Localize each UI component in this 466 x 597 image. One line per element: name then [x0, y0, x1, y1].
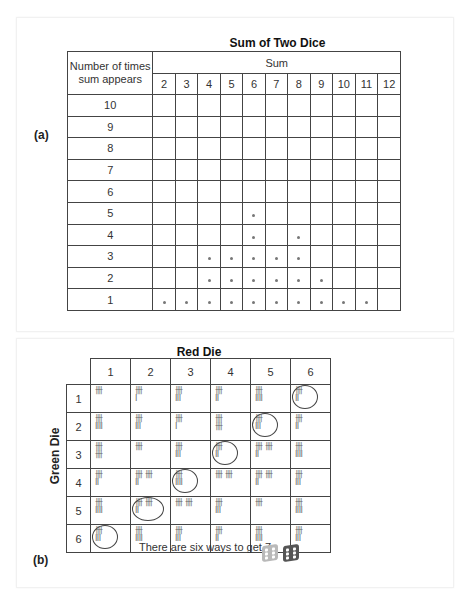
tally-cell-sum-7-count-3	[265, 246, 287, 268]
sum-header-2: 2	[153, 74, 175, 95]
tally-cell-sum-10-count-10	[333, 95, 356, 117]
red-die-icon	[283, 544, 299, 562]
tally-marks: 卌 卌 II	[255, 443, 290, 459]
tally-dot	[297, 279, 300, 282]
tally-marks: 卌 IIII	[295, 443, 330, 459]
tally-marks: 卌 卌	[175, 499, 210, 507]
tally-cell-sum-6-count-4	[243, 224, 265, 246]
tally-cell-sum-6-count-8	[243, 138, 265, 160]
tally-cell-sum-7-count-10	[265, 95, 287, 117]
tally-cell-sum-10-count-5	[333, 202, 356, 224]
tally-cell-sum-9-count-4	[310, 224, 332, 246]
sum-header-10: 10	[333, 74, 356, 95]
tally-dot	[230, 257, 233, 260]
table-row: 10	[68, 95, 401, 117]
tally-cell: 卌 III	[131, 413, 171, 441]
tally-cell-sum-10-count-2	[333, 267, 356, 289]
tally-cell-sum-2-count-10	[153, 95, 175, 117]
tally-cell-sum-8-count-10	[288, 95, 310, 117]
tally-marks: 卌 IIII	[95, 499, 130, 515]
tally-marks: 卌	[135, 443, 170, 451]
green-die-row-1: 1	[67, 385, 91, 413]
tally-cell-sum-2-count-5	[153, 202, 175, 224]
tally-cell-sum-12-count-6	[378, 181, 401, 203]
circled-tally-cell: 卌 III	[251, 413, 291, 441]
tally-cell-sum-3-count-3	[175, 246, 197, 268]
tally-marks: 卌 II	[95, 471, 130, 487]
tally-dot	[252, 214, 255, 217]
tally-cell-sum-12-count-5	[378, 202, 401, 224]
tally-cell: 卌 II	[291, 413, 331, 441]
tally-cell: 卌	[251, 497, 291, 525]
tally-cell-sum-10-count-6	[333, 181, 356, 203]
red-die-column-2: 2	[131, 359, 171, 385]
table-row: 7	[68, 159, 401, 181]
tally-marks: 卌 II	[215, 387, 250, 403]
tally-cell: 卌 IIII	[291, 497, 331, 525]
die-pip	[286, 552, 289, 555]
tally-cell-sum-6-count-3	[243, 246, 265, 268]
tally-cell-sum-7-count-9	[265, 116, 287, 138]
tally-cell-sum-11-count-5	[355, 202, 378, 224]
die-pip	[272, 555, 275, 558]
tally-cell: 卌 卌	[171, 497, 211, 525]
sum-header-7: 7	[265, 74, 287, 95]
tally-cell-sum-4-count-2	[198, 267, 220, 289]
tally-marks: 卌 卌	[215, 471, 250, 479]
tally-cell-sum-5-count-10	[220, 95, 242, 117]
tally-cell-sum-6-count-6	[243, 181, 265, 203]
tally-dot	[163, 301, 166, 304]
die-pip	[272, 547, 275, 550]
count-label: 1	[68, 289, 153, 311]
tally-dot	[208, 279, 211, 282]
tally-dot	[365, 301, 368, 304]
tally-marks: 卌 I	[135, 387, 170, 403]
tally-cell-sum-11-count-6	[355, 181, 378, 203]
table-row: 1卌卌 I卌 III卌 II卌 IIII卌 II	[67, 385, 331, 413]
tally-cell-sum-4-count-5	[198, 202, 220, 224]
tally-dot	[208, 257, 211, 260]
tally-marks: 卌 IIII	[295, 499, 330, 515]
tally-cell: 卌 II	[91, 469, 131, 497]
tally-cell-sum-9-count-1	[310, 289, 332, 311]
panel-label-b: (b)	[33, 553, 48, 567]
tally-cell-sum-5-count-6	[220, 181, 242, 203]
tally-cell-sum-5-count-3	[220, 246, 242, 268]
count-label: 5	[68, 202, 153, 224]
sum-table-title: Sum of Two Dice	[154, 36, 401, 50]
tally-cell-sum-6-count-1	[243, 289, 265, 311]
tally-marks: 卌 卌 II	[255, 471, 290, 487]
tally-cell-sum-4-count-1	[198, 289, 220, 311]
tally-cell-sum-12-count-4	[378, 224, 401, 246]
table-row: 5卌 IIII卌 卌 II卌 卌卌 III卌卌 IIII	[67, 497, 331, 525]
tally-cell-sum-9-count-9	[310, 116, 332, 138]
tally-cell-sum-8-count-7	[288, 159, 310, 181]
tally-cell-sum-7-count-5	[265, 202, 287, 224]
die-pip	[286, 548, 289, 551]
tally-cell-sum-4-count-6	[198, 181, 220, 203]
tally-marks: 卌 IIII	[255, 387, 290, 403]
tally-marks: 卌 卌 II	[135, 499, 170, 515]
tally-dot	[252, 279, 255, 282]
tally-cell-sum-4-count-4	[198, 224, 220, 246]
tally-cell-sum-9-count-7	[310, 159, 332, 181]
table-row: 8	[68, 138, 401, 160]
tally-marks: 卌 III	[215, 499, 250, 515]
tally-marks: 卌 III	[255, 415, 290, 431]
circled-tally-cell: 卌 卌 II	[131, 497, 171, 525]
table-row: 5	[68, 202, 401, 224]
tally-cell-sum-2-count-7	[153, 159, 175, 181]
tally-cell-sum-9-count-10	[310, 95, 332, 117]
tally-cell-sum-10-count-9	[333, 116, 356, 138]
tally-cell-sum-2-count-4	[153, 224, 175, 246]
tally-cell-sum-8-count-1	[288, 289, 310, 311]
tally-dot	[320, 279, 323, 282]
tally-cell-sum-7-count-7	[265, 159, 287, 181]
tally-cell-sum-5-count-7	[220, 159, 242, 181]
red-die-column-3: 3	[171, 359, 211, 385]
sum-header-8: 8	[288, 74, 310, 95]
tally-cell: 卌 卌 II	[251, 441, 291, 469]
tally-cell: 卌 IIII	[91, 497, 131, 525]
tally-cell-sum-5-count-2	[220, 267, 242, 289]
tally-cell-sum-8-count-2	[288, 267, 310, 289]
